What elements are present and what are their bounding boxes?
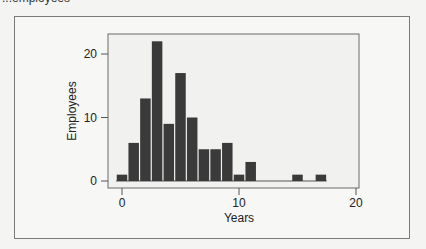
histogram-bar <box>222 143 233 181</box>
x-tick-label: 10 <box>232 196 246 210</box>
y-axis: 01020 <box>84 47 108 188</box>
histogram-bar <box>152 41 163 181</box>
histogram-bar <box>140 98 151 181</box>
histogram-bar <box>210 149 221 181</box>
histogram-bar <box>292 175 303 181</box>
histogram-bar <box>316 175 327 181</box>
x-tick-label: 20 <box>349 196 363 210</box>
histogram-bar <box>128 143 139 181</box>
y-axis-title: Employees <box>65 81 79 140</box>
y-tick-label: 10 <box>84 111 98 125</box>
histogram-bar <box>234 175 245 181</box>
x-axis-title: Years <box>224 211 254 225</box>
histogram-bar <box>199 149 210 181</box>
y-tick-label: 0 <box>90 174 97 188</box>
histogram-bar <box>117 175 128 181</box>
x-axis: 01020 <box>119 188 363 210</box>
histogram-bar <box>245 162 256 181</box>
histogram-chart: 01020 01020 Employees Years <box>0 0 426 249</box>
histogram-bar <box>164 124 175 181</box>
y-tick-label: 20 <box>84 47 98 61</box>
x-tick-label: 0 <box>119 196 126 210</box>
histogram-bar <box>175 73 186 181</box>
histogram-bar <box>187 118 198 182</box>
